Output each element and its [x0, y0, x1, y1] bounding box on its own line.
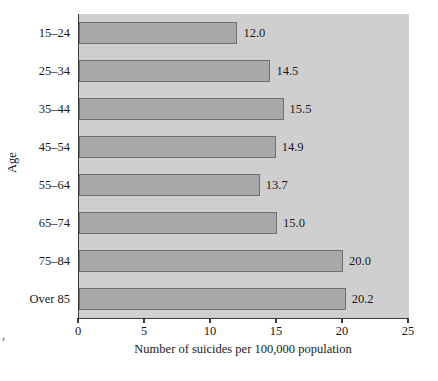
bar-value-label: 12.0: [243, 25, 265, 40]
bar-chart: Age 15–24 25–34 35–44 45–54 55–64 65–74 …: [0, 0, 438, 381]
bar-value-label: 14.9: [282, 139, 304, 154]
y-axis-tick-label: 25–34: [39, 64, 70, 79]
y-axis-tick-label: 45–54: [39, 140, 70, 155]
bar-row: 20.2: [79, 288, 409, 311]
bar: [79, 288, 346, 311]
bar-row: 20.0: [79, 250, 409, 273]
bar-value-label: 14.5: [276, 63, 298, 78]
bar-value-label: 15.0: [283, 215, 305, 230]
x-axis-tick-mark: [407, 318, 409, 323]
x-axis-tick-label: 0: [75, 324, 81, 339]
y-axis-tick-label: 65–74: [39, 216, 70, 231]
bar: [79, 98, 284, 121]
x-axis-tick-label: 5: [141, 324, 147, 339]
bar-row: 12.0: [79, 22, 409, 45]
x-axis-tick-label: 10: [204, 324, 217, 339]
x-axis-tick-mark: [209, 318, 211, 323]
x-axis-tick-mark: [275, 318, 277, 323]
bar-value-label: 13.7: [266, 177, 288, 192]
bar-row: 15.0: [79, 212, 409, 235]
y-axis-tick-label: 75–84: [39, 254, 70, 269]
y-axis-tick-label: 55–64: [39, 178, 70, 193]
bar: [79, 22, 237, 45]
y-axis-tick-label: Over 85: [29, 292, 70, 307]
bar-row: 13.7: [79, 174, 409, 197]
bar: [79, 136, 276, 159]
x-axis-tick-label: 20: [336, 324, 349, 339]
bar: [79, 60, 270, 83]
bar-value-label: 15.5: [290, 101, 312, 116]
bar-row: 15.5: [79, 98, 409, 121]
x-axis-tick-mark: [341, 318, 343, 323]
y-axis-tick-label: 15–24: [39, 26, 70, 41]
x-axis-tick-mark: [143, 318, 145, 323]
bar-value-label: 20.0: [349, 253, 371, 268]
page-margin-mark: ,: [2, 328, 5, 343]
x-axis-ticks: 0 5 10 15 20 25: [78, 318, 408, 340]
bar-value-label: 20.2: [352, 291, 374, 306]
y-axis-category-labels: 15–24 25–34 35–44 45–54 55–64 65–74 75–8…: [0, 14, 76, 318]
x-axis-tick-mark: [77, 318, 79, 323]
plot-area: 12.0 14.5 15.5 14.9 13.7 15.0: [78, 14, 409, 319]
x-axis-title: Number of suicides per 100,000 populatio…: [78, 342, 408, 357]
bar: [79, 212, 277, 235]
bar: [79, 250, 343, 273]
bar-row: 14.5: [79, 60, 409, 83]
bars-group: 12.0 14.5 15.5 14.9 13.7 15.0: [79, 14, 409, 318]
bar-row: 14.9: [79, 136, 409, 159]
bar: [79, 174, 260, 197]
x-axis-tick-label: 25: [402, 324, 415, 339]
x-axis-tick-label: 15: [270, 324, 283, 339]
y-axis-tick-label: 35–44: [39, 102, 70, 117]
